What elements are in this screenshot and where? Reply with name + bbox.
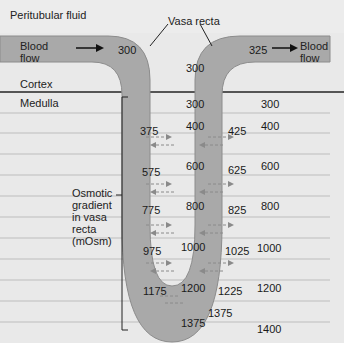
cortex-label: Cortex (20, 78, 52, 91)
inflow-value: 300 (118, 44, 136, 56)
inner-value-2: 600 (186, 160, 204, 172)
descending-value-3: 975 (143, 245, 161, 257)
descending-value-4: 1175 (143, 285, 167, 297)
blood-flow-out-label-2: flow (300, 52, 320, 65)
osmotic-gradient-label-5: (mOsm) (72, 235, 112, 248)
ascending-value-1: 625 (228, 164, 246, 176)
bottom-ascending-value: 1375 (208, 307, 232, 319)
inner-value-5: 1200 (181, 282, 205, 294)
descending-value-2: 775 (142, 204, 160, 216)
outer-value-4: 1000 (257, 242, 281, 254)
cortex-value: 300 (186, 62, 204, 74)
inner-value-0: 300 (186, 98, 204, 110)
descending-value-0: 375 (140, 125, 158, 137)
outer-value-2: 600 (261, 160, 279, 172)
outer-value-0: 300 (261, 98, 279, 110)
peritubular-fluid-label: Peritubular fluid (10, 9, 86, 22)
outer-value-1: 400 (261, 120, 279, 132)
descending-value-1: 575 (142, 166, 160, 178)
bottom-loop-value: 1375 (181, 317, 205, 329)
vasa-recta-label: Vasa recta (168, 15, 220, 28)
ascending-value-0: 425 (228, 125, 246, 137)
ascending-value-4: 1225 (218, 285, 242, 297)
ascending-value-3: 1025 (225, 245, 249, 257)
diagram-graphics (0, 0, 344, 343)
outer-value-5: 1200 (257, 282, 281, 294)
outer-value-3: 800 (261, 200, 279, 212)
inner-value-3: 800 (186, 200, 204, 212)
inner-value-1: 400 (186, 120, 204, 132)
outer-value-6: 1400 (257, 323, 281, 335)
ascending-value-2: 825 (228, 204, 246, 216)
medulla-label: Medulla (20, 97, 59, 110)
inner-value-4: 1000 (181, 241, 205, 253)
blood-flow-in-label-2: flow (20, 52, 40, 65)
outflow-value: 325 (249, 44, 267, 56)
vasa-recta-diagram: Peritubular fluid Blood flow Blood flow … (0, 0, 344, 343)
